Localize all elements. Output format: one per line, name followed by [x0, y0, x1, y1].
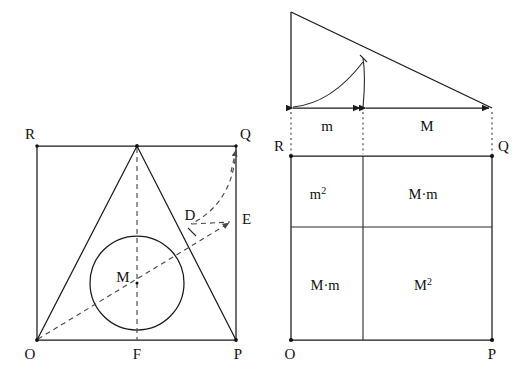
- cell-label-top-right: M·m: [409, 186, 439, 202]
- cell-label-bottom-right: M2: [414, 276, 432, 293]
- label-left-Q: Q: [240, 126, 251, 142]
- left-arc-Q-to-D: [191, 150, 236, 224]
- cell-tl-base: m: [310, 186, 322, 202]
- label-left-D: D: [185, 207, 196, 223]
- vertex-dot-M: [136, 282, 139, 285]
- label-segment-M: M: [420, 118, 433, 134]
- label-left-E: E: [242, 211, 251, 227]
- vertex-dot-apex: [135, 144, 139, 148]
- left-chord-D-E: [192, 222, 230, 224]
- vertex-dot-Q: [234, 144, 237, 147]
- label-left-O: O: [25, 346, 36, 362]
- label-left-R: R: [25, 126, 35, 142]
- label-right-O: O: [285, 346, 296, 362]
- right-panel-bottom: R Q O P m2 M·m M·m M2: [274, 138, 509, 362]
- construction-arc: [293, 62, 363, 107]
- vertex-dot-O: [35, 338, 39, 342]
- label-left-M: M: [116, 269, 129, 285]
- label-left-P: P: [234, 346, 242, 362]
- left-panel: R Q O F P M D E: [25, 126, 252, 362]
- triangle-hypotenuse: [291, 12, 492, 108]
- right-panel-top: m M: [291, 12, 492, 154]
- construction-drop-line: [363, 58, 365, 107]
- geometry-figure: R Q O F P M D E: [0, 0, 529, 389]
- vertex-dot-R: [35, 144, 38, 147]
- tangency-tick-D: [188, 228, 196, 236]
- cell-br-base: M: [414, 277, 427, 293]
- cell-tl-sup: 2: [321, 185, 326, 196]
- cell-label-top-left: m2: [310, 185, 326, 202]
- left-ray-O-M-E: [38, 223, 229, 339]
- label-segment-m: m: [321, 118, 333, 134]
- label-right-R: R: [274, 138, 284, 154]
- label-right-P: P: [488, 346, 496, 362]
- vertex-dot-right-R: [289, 154, 293, 158]
- cell-label-bottom-left: M·m: [311, 277, 341, 293]
- cell-br-sup: 2: [427, 276, 432, 287]
- diagram-canvas: R Q O F P M D E: [0, 0, 529, 389]
- vertex-dot-P: [234, 338, 238, 342]
- label-right-Q: Q: [498, 138, 509, 154]
- vertex-dot-right-Q: [490, 154, 494, 158]
- label-left-F: F: [133, 346, 141, 362]
- vertex-dot-right-O: [289, 338, 293, 342]
- vertex-dot-right-P: [490, 338, 494, 342]
